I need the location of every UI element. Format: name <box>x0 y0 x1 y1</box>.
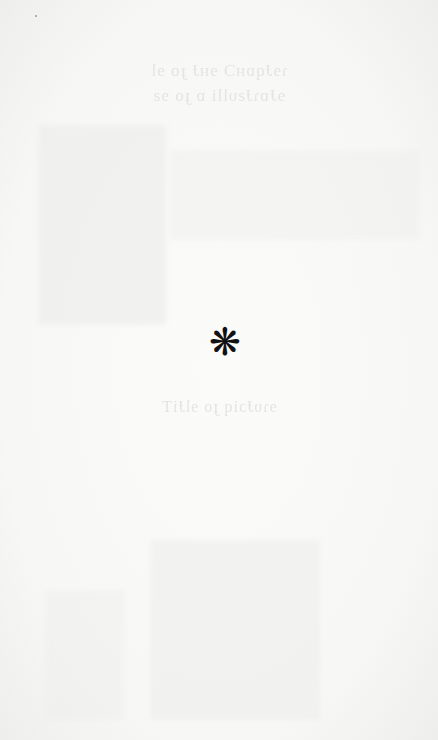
show-through-text-line: ɿɘɈqɒʜƆ ɘʜɈ ɟo ɘl <box>0 61 438 81</box>
show-through-illustration-bottom-left <box>45 590 125 720</box>
show-through-illustration-right <box>170 150 420 240</box>
asterisk-ornament-icon: ❋ <box>204 322 246 362</box>
show-through-illustration-left <box>38 125 166 325</box>
book-page: ɿɘɈqɒʜƆ ɘʜɈ ɟo ɘl ɘɈɒɿɈƨυlli ɒ ɟo ɘƨ ɘɿυ… <box>0 0 438 740</box>
show-through-text-line: ɘɿυɈɔiq ɟo ɘlɈiT <box>0 398 438 416</box>
scan-speck <box>35 15 37 17</box>
show-through-text-line: ɘɈɒɿɈƨυlli ɒ ɟo ɘƨ <box>0 86 438 106</box>
show-through-illustration-bottom <box>150 540 320 720</box>
